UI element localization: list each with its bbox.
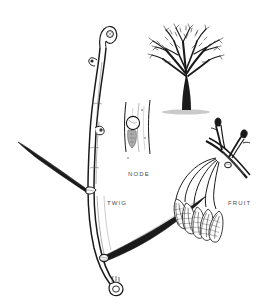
twig-node-lower (100, 254, 109, 261)
figure-fruit (170, 118, 250, 243)
fruit-branch-bud (225, 162, 232, 168)
tree-trunk (182, 72, 191, 110)
lateral-bud-upper (89, 58, 97, 66)
figure-label-node: NODE (128, 171, 150, 177)
figure-label-fruit: FRUIT (228, 200, 251, 206)
terminal-bud (100, 27, 117, 48)
side-branch-upper (18, 142, 89, 194)
fruit-terminal-bud-left (215, 118, 221, 126)
figure-node-detail (125, 100, 151, 159)
fruit-branch-fork (211, 118, 250, 158)
node-leaf-scar (128, 130, 137, 148)
fruit-terminal-bud-right (241, 130, 248, 138)
tree-ground-shadow (162, 109, 210, 114)
plate-artwork (0, 0, 267, 308)
figure-label-twig: TWIG (107, 200, 127, 206)
node-bud (126, 116, 139, 129)
botanical-plate: NODE TWIG FRUIT (0, 0, 267, 308)
samara-stalks (176, 158, 219, 209)
figure-tree (148, 24, 224, 115)
figure-twig (18, 27, 206, 296)
